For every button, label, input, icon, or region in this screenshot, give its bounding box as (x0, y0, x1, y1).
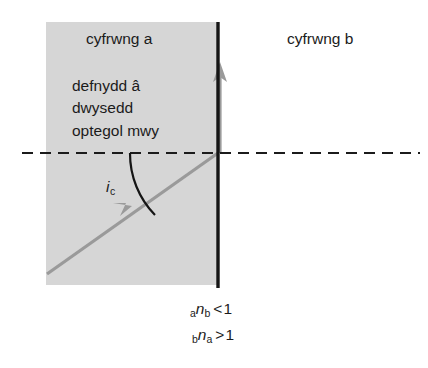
formula-2-relation: > (215, 326, 224, 343)
formula-2-value: 1 (225, 326, 234, 343)
formula-refractive-index-b-to-a: bna>1 (192, 326, 234, 345)
formula-refractive-index-a-to-b: anb<1 (190, 300, 232, 319)
critical-angle-symbol: i (106, 178, 109, 195)
critical-angle-subscript: c (110, 185, 115, 197)
material-description-line-3: optegol mwy (72, 121, 159, 141)
label-critical-angle: ic (106, 177, 115, 199)
label-material-description: defnydd â dwysedd optegol mwy (72, 76, 159, 143)
formula-2-trailing-subscript: a (206, 333, 212, 345)
formula-1-value: 1 (223, 300, 232, 317)
formula-1-trailing-subscript: b (204, 307, 210, 319)
formula-1-relation: < (213, 300, 222, 317)
material-description-line-1: defnydd â (72, 76, 159, 96)
label-medium-a: cyfrwng a (86, 29, 152, 49)
diagram-canvas: cyfrwng a cyfrwng b defnydd â dwysedd op… (0, 0, 428, 368)
material-description-line-2: dwysedd (72, 98, 159, 118)
label-medium-b: cyfrwng b (287, 29, 353, 49)
